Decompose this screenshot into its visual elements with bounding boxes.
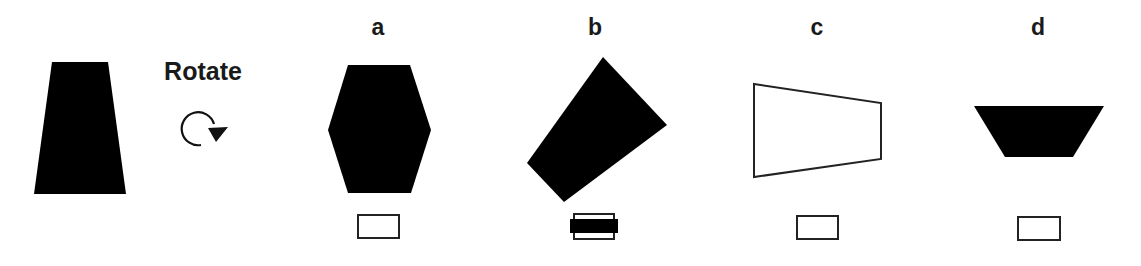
- option-a-label: a: [372, 16, 385, 39]
- option-d-checkbox[interactable]: [1018, 217, 1060, 240]
- option-a-checkbox[interactable]: [358, 215, 399, 238]
- option-d-label: d: [1031, 16, 1045, 39]
- option-b-label: b: [588, 16, 602, 39]
- option-d-shape: [974, 106, 1104, 157]
- rotation-puzzle: Rotate a b c d: [0, 0, 1141, 266]
- rotate-instruction-label: Rotate: [164, 59, 242, 84]
- option-b-checkbox[interactable]: [570, 214, 618, 239]
- option-b-shape: [527, 57, 667, 202]
- option-a-shape: [328, 65, 431, 193]
- checked-mark: [570, 219, 618, 233]
- option-c-label: c: [811, 16, 824, 39]
- rotate-clockwise-icon: [182, 112, 228, 145]
- source-trapezoid: [34, 62, 126, 194]
- option-c-shape: [754, 84, 881, 177]
- diagram-canvas: [0, 0, 1141, 266]
- option-c-checkbox[interactable]: [797, 216, 838, 239]
